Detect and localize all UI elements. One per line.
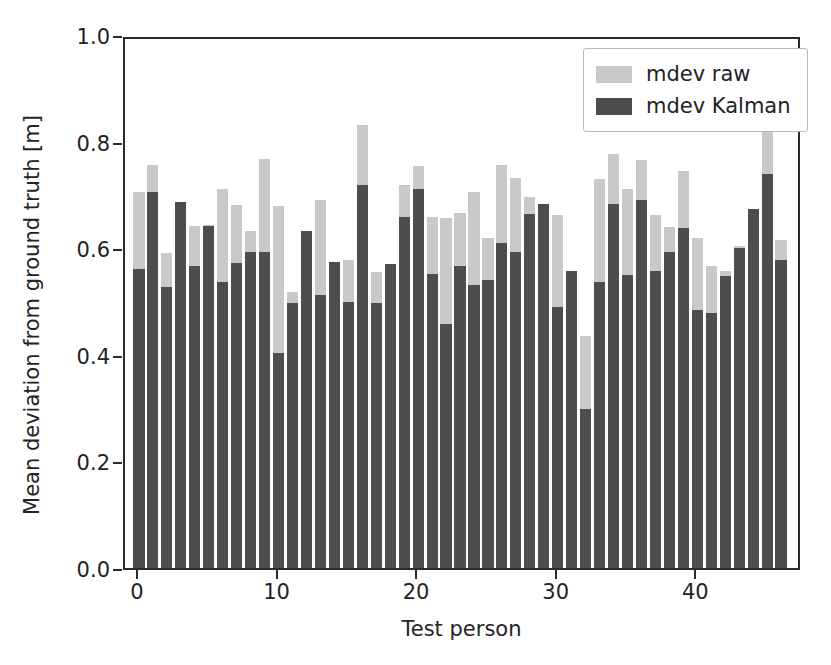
bar-group (161, 35, 172, 568)
bar-segment-kalman (440, 324, 451, 568)
legend-item: mdev Kalman (596, 90, 791, 122)
legend-label: mdev Kalman (646, 94, 791, 118)
y-axis-tick-mark (113, 569, 122, 571)
bar-segment-kalman (762, 174, 773, 568)
y-axis-tick-mark (113, 36, 122, 38)
bar-group (301, 35, 312, 568)
bar-segment-kalman (399, 217, 410, 568)
bar-segment-kalman (329, 262, 340, 568)
bar-segment-kalman (175, 202, 186, 568)
bar-segment-kalman (664, 252, 675, 568)
bar-group (371, 35, 382, 568)
bar-group (315, 35, 326, 568)
bar-group (133, 35, 144, 568)
bar-segment-kalman (748, 209, 759, 568)
x-axis-tick-label: 40 (682, 580, 709, 604)
x-axis-tick-label: 30 (542, 580, 569, 604)
bar-group (566, 35, 577, 568)
bar-segment-kalman (413, 189, 424, 568)
bar-segment-kalman (454, 266, 465, 568)
bar-segment-kalman (315, 295, 326, 568)
bar-group (175, 35, 186, 568)
bar-segment-kalman (650, 271, 661, 568)
bar-segment-kalman (734, 248, 745, 568)
bar-segment-kalman (510, 252, 521, 568)
bar-chart-figure: 0.00.20.40.60.81.0 Mean deviation from g… (0, 0, 831, 665)
bar-segment-kalman (720, 276, 731, 568)
y-axis-tick-label: 0.6 (77, 238, 110, 262)
y-axis-tick-label: 0.8 (77, 132, 110, 156)
bar-segment-kalman (301, 231, 312, 568)
bar-segment-kalman (231, 263, 242, 568)
bar-group (343, 35, 354, 568)
bar-segment-kalman (636, 200, 647, 568)
bar-segment-kalman (189, 266, 200, 568)
bar-group (189, 35, 200, 568)
y-axis-tick-mark (113, 249, 122, 251)
bar-segment-kalman (566, 271, 577, 568)
bar-segment-kalman (580, 409, 591, 568)
bar-segment-kalman (217, 282, 228, 568)
bar-group (385, 35, 396, 568)
bar-group (468, 35, 479, 568)
bar-group (413, 35, 424, 568)
bar-segment-kalman (147, 192, 158, 568)
legend-swatch (596, 66, 632, 83)
bar-segment-kalman (343, 302, 354, 569)
bar-segment-kalman (538, 204, 549, 568)
y-axis-tick-label: 0.0 (77, 558, 110, 582)
bar-group (552, 35, 563, 568)
bar-segment-kalman (524, 214, 535, 568)
bar-group (231, 35, 242, 568)
bar-segment-kalman (552, 307, 563, 568)
x-axis-title: Test person (123, 617, 800, 641)
bar-group (524, 35, 535, 568)
y-axis-tick-labels: 0.00.20.40.60.81.0 (0, 0, 110, 665)
bar-segment-kalman (203, 226, 214, 568)
bar-segment-kalman (608, 204, 619, 568)
x-axis-tick-mark (276, 570, 278, 579)
x-axis-tick-mark (136, 570, 138, 579)
y-axis-tick-label: 0.4 (77, 345, 110, 369)
bar-segment-kalman (371, 303, 382, 568)
bar-segment-kalman (287, 303, 298, 568)
bar-group (203, 35, 214, 568)
x-axis-tick-label: 20 (403, 580, 430, 604)
bar-segment-kalman (245, 252, 256, 568)
bar-segment-kalman (357, 185, 368, 568)
bar-group (482, 35, 493, 568)
bar-segment-kalman (161, 287, 172, 568)
bar-group (287, 35, 298, 568)
legend-label: mdev raw (646, 62, 751, 86)
bar-group (357, 35, 368, 568)
y-axis-tick-label: 1.0 (77, 25, 110, 49)
bar-segment-kalman (273, 353, 284, 568)
y-axis-tick-label: 0.2 (77, 451, 110, 475)
bar-group (329, 35, 340, 568)
bar-group (259, 35, 270, 568)
bar-group (510, 35, 521, 568)
bar-segment-kalman (427, 274, 438, 568)
bar-segment-kalman (482, 280, 493, 568)
bar-group (454, 35, 465, 568)
y-axis-title: Mean deviation from ground truth [m] (20, 55, 44, 575)
bar-segment-kalman (496, 243, 507, 568)
bar-segment-kalman (385, 264, 396, 568)
bar-group (440, 35, 451, 568)
bar-segment-kalman (133, 269, 144, 568)
bar-segment-kalman (468, 285, 479, 568)
bar-segment-kalman (594, 282, 605, 568)
legend-item: mdev raw (596, 58, 791, 90)
y-axis-tick-mark (113, 462, 122, 464)
x-axis-tick-label: 0 (130, 580, 143, 604)
bar-segment-kalman (622, 275, 633, 568)
x-axis-tick-label: 10 (263, 580, 290, 604)
x-axis-tick-mark (555, 570, 557, 579)
bar-group (245, 35, 256, 568)
bar-group (538, 35, 549, 568)
bar-segment-kalman (775, 260, 786, 568)
bar-group (273, 35, 284, 568)
x-axis-tick-mark (694, 570, 696, 579)
bar-segment-kalman (259, 252, 270, 568)
bar-group (217, 35, 228, 568)
